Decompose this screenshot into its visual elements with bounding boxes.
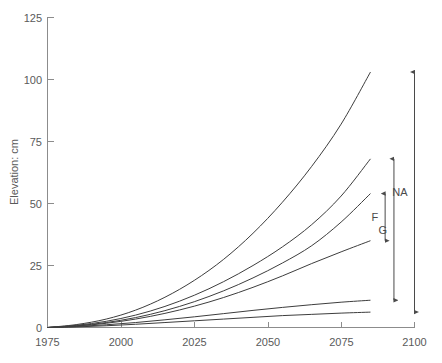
x-tick-label-2025: 2025 — [182, 336, 206, 348]
chart-figure: 125 100 75 50 25 0 Elevation: c — [0, 0, 442, 363]
annotation-group: NAGF — [371, 72, 414, 312]
x-tick-label-1975: 1975 — [35, 336, 59, 348]
range-label-F: F — [371, 211, 378, 223]
x-tick-label-2100: 2100 — [402, 336, 426, 348]
x-tick-2025: 2025 — [182, 322, 206, 349]
x-tick-2050: 2050 — [256, 322, 280, 349]
series-group — [48, 72, 371, 327]
x-tick-2075: 2075 — [329, 322, 353, 349]
y-tick-125: 125 — [24, 12, 54, 24]
y-tick-label-50: 50 — [30, 198, 42, 210]
series-scenario-4 — [48, 241, 371, 328]
y-tick-label-25: 25 — [30, 260, 42, 272]
range-label-NA: NA — [392, 186, 408, 198]
chart-canvas: 125 100 75 50 25 0 Elevation: c — [0, 0, 442, 363]
x-tick-label-2000: 2000 — [109, 336, 133, 348]
y-tick-25: 25 — [30, 260, 54, 272]
range-label-G: G — [378, 224, 387, 236]
y-tick-100: 100 — [24, 74, 54, 86]
y-tick-50: 50 — [30, 198, 54, 210]
y-axis: 125 100 75 50 25 0 Elevation: c — [8, 12, 54, 334]
range-annotation-G: G — [378, 159, 394, 300]
series-scenario-3 — [48, 194, 371, 328]
y-tick-label-75: 75 — [30, 136, 42, 148]
y-tick-label-100: 100 — [24, 74, 42, 86]
y-axis-title: Elevation: cm — [8, 139, 20, 205]
y-tick-75: 75 — [30, 136, 54, 148]
x-tick-label-2050: 2050 — [256, 336, 280, 348]
range-annotation-NA: NA — [392, 72, 414, 312]
y-tick-label-125: 125 — [24, 12, 42, 24]
x-tick-label-2075: 2075 — [329, 336, 353, 348]
x-tick-2100: 2100 — [402, 322, 426, 349]
y-tick-label-0: 0 — [36, 322, 42, 334]
